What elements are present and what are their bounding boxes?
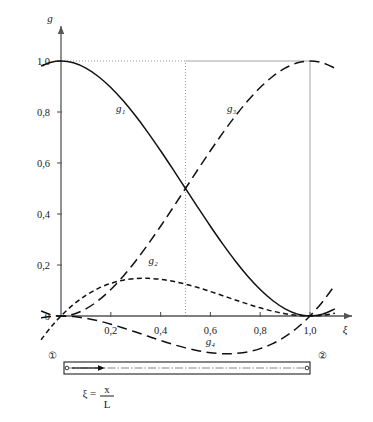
formula-equals: = xyxy=(90,387,96,399)
curve-label-: g₁ xyxy=(116,102,126,114)
x-tick-label-1: 0,4 xyxy=(154,325,168,336)
curve- xyxy=(41,61,335,316)
x-tick-label-3: 0,8 xyxy=(254,325,267,336)
curve- xyxy=(41,61,335,316)
y-tick-label-2: 0,4 xyxy=(37,209,51,220)
x-tick-label-4: 1,0 xyxy=(303,325,316,336)
y-tick-label-3: 0,6 xyxy=(37,158,50,169)
beam-x-arrow-head xyxy=(98,365,105,370)
y-tick-label-1: 0,2 xyxy=(37,260,50,271)
x-axis-arrow xyxy=(344,313,352,319)
x-tick-label-0: 0,2 xyxy=(104,325,117,336)
curve-label-: g₂ xyxy=(148,254,158,266)
formula-denominator: L xyxy=(104,398,111,410)
y-axis-title: g xyxy=(47,12,53,24)
beam-node-right-label: ② xyxy=(318,350,327,361)
beam-node-right-dot xyxy=(305,366,309,370)
beam-node-left-label: ① xyxy=(48,350,57,361)
y-tick-label-4: 0,8 xyxy=(37,107,50,118)
y-axis-arrow xyxy=(58,26,64,34)
curve- xyxy=(41,278,335,340)
curve-label-: g₃ xyxy=(227,102,237,114)
formula-numerator: x xyxy=(104,383,110,395)
curve-label-: g₄ xyxy=(206,335,216,347)
shape-function-figure: gξ00,20,40,60,81,00,20,40,60,81,0g₁g₂g₃g… xyxy=(0,0,373,422)
x-axis-title: ξ xyxy=(343,323,348,336)
formula-variable: ξ xyxy=(83,387,88,400)
beam-node-left-dot xyxy=(65,366,69,370)
